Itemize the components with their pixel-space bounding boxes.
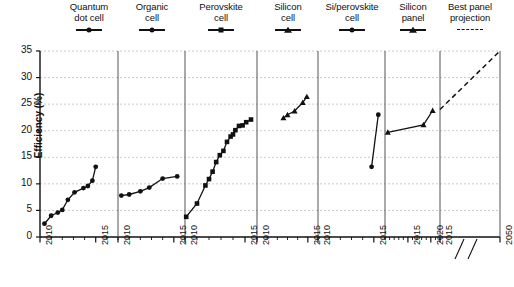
axis-break-slash: [468, 239, 477, 259]
series-line: [440, 51, 500, 109]
data-point: [86, 184, 91, 189]
data-point: [221, 149, 226, 154]
data-point: [127, 192, 132, 197]
data-point: [210, 169, 215, 174]
data-point: [175, 174, 180, 179]
axis-break-slash: [455, 239, 464, 259]
x-tick-label: 2010: [189, 225, 199, 245]
data-point: [72, 190, 77, 195]
series-best-panel-projection: [440, 51, 500, 109]
x-tick-label: 2050: [504, 225, 514, 245]
data-point: [207, 177, 212, 182]
data-point: [160, 176, 165, 181]
x-tick-label: 2015: [312, 225, 322, 245]
data-point: [376, 112, 381, 117]
data-point: [203, 183, 208, 188]
y-tick-label: 15: [10, 150, 32, 161]
x-tick-label: 2015: [100, 225, 110, 245]
data-point: [49, 213, 54, 218]
data-point: [81, 186, 86, 191]
data-point: [65, 197, 70, 202]
data-point: [184, 215, 189, 220]
series-silicon-cell: [280, 94, 309, 121]
data-point: [147, 185, 152, 190]
y-tick-label: 20: [10, 124, 32, 135]
y-tick-label: 10: [10, 177, 32, 188]
data-point: [430, 108, 436, 113]
series-perovskite-cell: [184, 117, 253, 219]
x-tick-label: 2015: [444, 225, 454, 245]
series-organic-cell: [119, 174, 180, 198]
y-tick-label: 30: [10, 71, 32, 82]
x-tick-label: 2015: [178, 225, 188, 245]
x-tick-label: 2015: [249, 225, 259, 245]
data-point: [244, 120, 249, 125]
data-point: [369, 164, 374, 169]
data-point: [231, 132, 236, 137]
data-point: [218, 153, 223, 158]
x-tick-label: 2015: [378, 225, 388, 245]
data-point: [90, 178, 95, 183]
series-line: [372, 115, 379, 167]
x-tick-label: 2010: [322, 225, 332, 245]
data-point: [60, 207, 65, 212]
x-tick-label: 2010: [261, 225, 271, 245]
y-tick-label: 25: [10, 97, 32, 108]
series-line: [388, 111, 433, 133]
data-point: [304, 94, 310, 99]
y-axis-title: Efficiency (%): [33, 66, 44, 186]
data-point: [214, 160, 219, 165]
data-point: [225, 140, 230, 145]
data-point: [93, 164, 98, 169]
y-tick-label: 0: [10, 230, 32, 241]
y-tick-label: 5: [10, 203, 32, 214]
data-point: [119, 193, 124, 198]
x-tick-label: 2010: [44, 225, 54, 245]
data-point: [55, 210, 60, 215]
x-tick-label: 2010: [122, 225, 132, 245]
series-quantum-dot-cell: [42, 164, 98, 226]
data-point: [249, 117, 254, 122]
data-point: [195, 201, 200, 206]
data-point: [285, 112, 291, 117]
data-point: [138, 189, 143, 194]
x-tick-label: 2015: [412, 225, 422, 245]
series-si-perovskite-cell: [369, 112, 380, 169]
y-tick-label: 35: [10, 44, 32, 55]
data-point: [233, 128, 238, 133]
